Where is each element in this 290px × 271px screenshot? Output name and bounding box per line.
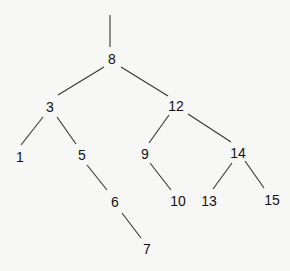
edge-8-3 [58,67,104,95]
edge-12-9 [149,115,169,143]
tree-edges [0,0,290,271]
edge-6-7 [122,213,141,238]
edge-14-15 [245,161,264,188]
tree-node-13: 13 [201,194,217,208]
edge-3-1 [21,117,43,145]
tree-node-14: 14 [230,146,246,160]
tree-node-10: 10 [170,194,186,208]
tree-node-7: 7 [143,242,151,256]
tree-node-1: 1 [16,150,24,164]
tree-node-9: 9 [141,147,149,161]
edge-12-14 [188,114,231,142]
tree-node-15: 15 [264,193,280,207]
edge-3-5 [57,117,76,144]
tree-node-5: 5 [78,148,86,162]
tree-node-8: 8 [108,52,116,66]
edge-9-10 [150,163,171,190]
tree-node-12: 12 [168,99,184,113]
tree-node-3: 3 [46,100,54,114]
tree-node-6: 6 [111,195,119,209]
edge-14-13 [213,163,232,189]
edge-5-6 [87,165,107,190]
edge-8-12 [121,67,168,96]
